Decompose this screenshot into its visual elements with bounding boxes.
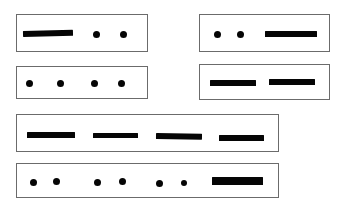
dot-mark [57,80,64,87]
figure-canvas [0,0,341,207]
sequence-group-box [16,114,279,152]
dot-mark [93,31,100,38]
dash-mark [212,177,263,185]
dot-mark [94,179,101,186]
dot-mark [30,179,37,186]
dot-mark [91,80,98,87]
dash-mark [265,31,317,37]
dot-mark [53,178,60,185]
dash-mark [269,79,315,85]
sequence-group-box [199,14,330,52]
dot-mark [120,31,127,38]
sequence-group-box [16,66,148,99]
dot-mark [118,80,125,87]
dash-mark [23,30,73,37]
dot-mark [237,31,244,38]
dash-mark [210,80,256,86]
dash-mark [27,132,75,138]
dot-mark [26,80,33,87]
dot-mark [156,180,163,187]
sequence-group-box [199,64,330,100]
dot-mark [119,178,126,185]
dash-mark [93,133,138,138]
dash-mark [219,135,264,141]
dot-mark [214,31,221,38]
sequence-group-box [16,163,279,198]
dash-mark [156,133,202,140]
sequence-group-box [16,14,148,52]
dot-mark [181,180,187,186]
